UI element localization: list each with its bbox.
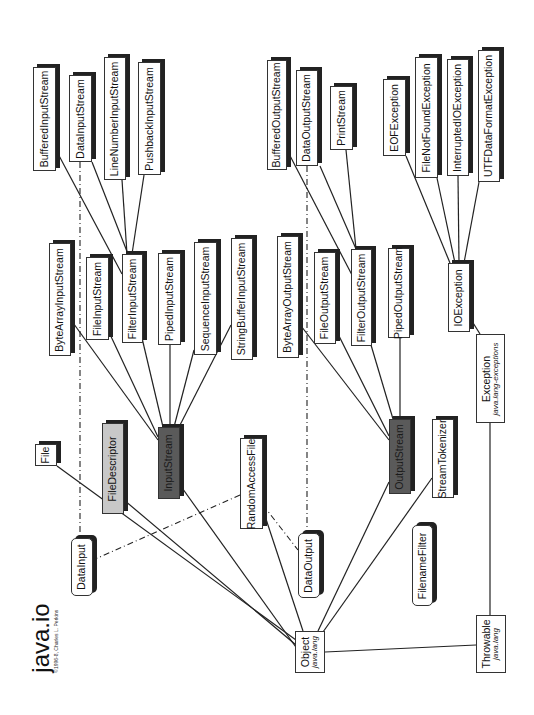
title-text: java.io: [29, 603, 53, 672]
node-utf-data-format-exception: UTFDataFormatException: [478, 50, 500, 182]
node-string-buffer-input-stream: StringBufferInputStream: [231, 238, 253, 360]
node-file-descriptor: FileDescriptor: [102, 423, 124, 514]
node-filter-input-stream: FilterInputStream: [122, 254, 143, 343]
node-byte-array-input-stream: ByteArrayInputStream: [49, 243, 71, 356]
node-file-not-found-exception: FileNotFoundException: [415, 57, 438, 178]
node-line-number-input-stream: LineNumberInputStream: [104, 57, 126, 180]
node-stream-tokenizer: StreamTokenizer: [432, 419, 454, 498]
node-piped-output-stream: PipedOutputStream: [388, 248, 410, 338]
node-data-input-stream: DataInputStream: [69, 75, 92, 162]
node-exception: Exceptionjava.lang-exceptions: [476, 334, 505, 423]
node-input-stream: InputStream: [158, 427, 180, 499]
node-pushback-input-stream: PushbackInputStream: [138, 62, 161, 175]
node-throwable: Throwablejava.lang: [476, 615, 506, 673]
node-byte-array-output-stream: ByteArrayOutputStream: [277, 236, 299, 358]
node-filter-output-stream: FilterOutputStream: [351, 249, 372, 346]
node-file: File: [35, 444, 57, 466]
node-interrupted-io-exception: InterruptedIOException: [447, 59, 469, 176]
node-data-output-stream: DataOutputStream: [296, 70, 318, 166]
node-io-exception: IOException: [448, 263, 470, 332]
node-buffered-input-stream: BufferedInputStream: [33, 67, 56, 171]
diagram-title: java.io ©1996-8, Charles L. Perkins: [14, 598, 74, 678]
node-file-output-stream: FileOutputStream: [314, 252, 336, 344]
node-output-stream: OutputStream: [389, 419, 411, 494]
node-eof-exception: EOFException: [383, 79, 406, 156]
node-file-input-stream: FileInputStream: [86, 257, 109, 340]
node-sequence-input-stream: SequenceInputStream: [194, 242, 217, 355]
copyright-text: ©1996-8, Charles L. Perkins: [53, 603, 59, 672]
node-data-output: DataOutput: [298, 533, 320, 598]
node-data-input: DataInput: [71, 538, 93, 596]
node-filename-filter: FilenameFilter: [412, 525, 433, 606]
node-random-access-file: RandomAccessFile: [240, 438, 263, 529]
node-object: Objectjava.lang: [295, 631, 325, 673]
node-piped-input-stream: PipedInputStream: [158, 253, 181, 345]
node-buffered-output-stream: BufferedOutputStream: [267, 60, 287, 170]
node-print-stream: PrintStream: [330, 86, 353, 150]
